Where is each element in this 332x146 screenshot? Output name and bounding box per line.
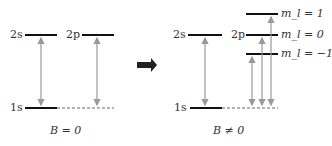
label-2p-right: 2p xyxy=(231,28,245,41)
label-ml-plus1: m_l = 1 xyxy=(281,7,324,20)
transition-arrow-icon xyxy=(137,58,157,72)
label-2s-left: 2s xyxy=(10,28,23,41)
label-1s-left: 1s xyxy=(10,101,23,114)
caption-right: B ≠ 0 xyxy=(213,124,244,137)
label-ml-minus1: m_l = −1 xyxy=(281,47,332,60)
label-2p-left: 2p xyxy=(66,28,80,41)
label-ml-0: m_l = 0 xyxy=(281,28,324,41)
caption-left: B = 0 xyxy=(50,124,81,137)
zeeman-diagram: 2s 2p 1s B = 0 2s 2p 1s m_l = 1 m_l = 0 … xyxy=(0,0,332,146)
label-2s-right: 2s xyxy=(173,28,186,41)
label-1s-right: 1s xyxy=(174,101,187,114)
